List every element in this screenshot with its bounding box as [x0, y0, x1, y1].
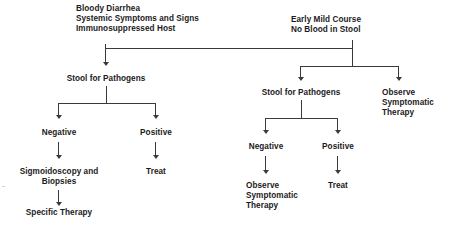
- connector-right-entry-drop: [352, 48, 353, 66]
- arrowhead-to-observe-top: [396, 77, 402, 81]
- arrowhead-to-right-stool: [298, 77, 304, 81]
- connector-right-positive-to-treat: [337, 156, 338, 171]
- node-right-negative: Negative: [231, 142, 301, 152]
- arrowhead-to-left-stool: [103, 62, 109, 66]
- node-right-entry-criteria: Early Mild Course No Blood in Stool: [291, 15, 361, 35]
- node-left-positive: Positive: [121, 128, 191, 138]
- arrowhead-to-right-treat: [335, 170, 341, 174]
- node-left-treat: Treat: [121, 167, 191, 177]
- connector-right-stool-stem: [301, 100, 302, 118]
- arrowhead-to-right-positive: [335, 130, 341, 134]
- node-sigmoidoscopy-and-biopsies: Sigmoidoscopy and Biopsies: [0, 167, 119, 187]
- connector-to-left-stool: [105, 48, 106, 63]
- scan-artifact: [2, 186, 5, 187]
- arrowhead-to-left-negative: [56, 115, 62, 119]
- arrowhead-to-observe-bottom: [263, 170, 269, 174]
- arrowhead-to-specific-therapy: [56, 202, 62, 206]
- node-observe-symptomatic-therapy-top: Observe Symptomatic Therapy: [382, 88, 434, 119]
- connector-left-stool-stem: [106, 86, 107, 103]
- arrowhead-to-right-negative: [263, 130, 269, 134]
- connector-left-negative-to-sigmoidoscopy: [58, 142, 59, 156]
- arrowhead-to-left-treat: [153, 155, 159, 159]
- arrowhead-to-left-positive: [153, 115, 159, 119]
- node-left-negative: Negative: [24, 128, 94, 138]
- connector-right-split-bar-lower: [265, 118, 338, 119]
- node-specific-therapy: Specific Therapy: [0, 208, 119, 218]
- node-left-stool-for-pathogens: Stool for Pathogens: [46, 74, 166, 84]
- arrowhead-to-sigmoidoscopy: [56, 155, 62, 159]
- connector-right-negative-to-observe: [265, 156, 266, 171]
- connector-right-split-bar: [300, 66, 399, 67]
- node-left-entry-criteria: Bloody Diarrhea Systemic Symptoms and Si…: [76, 4, 199, 35]
- node-observe-symptomatic-therapy-bottom: Observe Symptomatic Therapy: [246, 181, 298, 212]
- connector-left-positive-to-treat: [155, 142, 156, 156]
- node-right-stool-for-pathogens: Stool for Pathogens: [241, 88, 361, 98]
- flowchart-canvas: Bloody Diarrhea Systemic Symptoms and Si…: [0, 0, 451, 229]
- connector-left-split-bar: [58, 103, 156, 104]
- node-right-positive: Positive: [303, 142, 373, 152]
- node-right-treat: Treat: [303, 181, 373, 191]
- connector-top-horizontal: [105, 48, 353, 49]
